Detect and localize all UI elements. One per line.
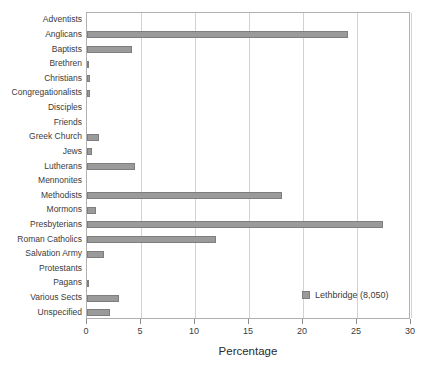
- bar-pagans: [87, 280, 89, 287]
- category-label-lutherans: Lutherans: [44, 161, 82, 171]
- bar-congregationalists: [87, 90, 90, 97]
- bar-row: [87, 159, 409, 174]
- bar-row: [87, 188, 409, 203]
- legend: Lethbridge (8,050): [302, 290, 389, 300]
- x-tick-label-25: 25: [351, 326, 361, 336]
- x-tick-25: [356, 319, 357, 324]
- bar-chart: AdventistsAnglicansBaptistsBrethrenChris…: [0, 0, 423, 368]
- category-label-brethren: Brethren: [49, 58, 82, 68]
- bar-christians: [87, 75, 90, 82]
- x-tick-label-0: 0: [83, 326, 88, 336]
- bar-methodists: [87, 192, 282, 199]
- bar-presbyterians: [87, 221, 383, 228]
- category-label-disciples: Disciples: [48, 102, 82, 112]
- gridline-30: [411, 13, 412, 318]
- x-tick-30: [410, 319, 411, 324]
- category-label-mennonites: Mennonites: [38, 175, 82, 185]
- bar-row: [87, 28, 409, 43]
- bar-row: [87, 174, 409, 189]
- bar-row: [87, 71, 409, 86]
- x-axis-title: Percentage: [86, 345, 410, 357]
- bar-row: [87, 305, 409, 320]
- bar-salvation-army: [87, 251, 104, 258]
- category-label-mormons: Mormons: [47, 204, 82, 214]
- x-tick-label-5: 5: [137, 326, 142, 336]
- bar-row: [87, 101, 409, 116]
- bar-row: [87, 145, 409, 160]
- bar-row: [87, 203, 409, 218]
- bar-unspecified: [87, 309, 110, 316]
- bar-row: [87, 232, 409, 247]
- category-label-unspecified: Unspecified: [38, 307, 82, 317]
- category-label-christians: Christians: [44, 73, 82, 83]
- x-tick-5: [140, 319, 141, 324]
- bar-brethren: [87, 61, 89, 68]
- x-tick-15: [248, 319, 249, 324]
- category-axis-labels: AdventistsAnglicansBaptistsBrethrenChris…: [0, 12, 82, 319]
- bar-greek-church: [87, 134, 99, 141]
- bar-row: [87, 115, 409, 130]
- category-label-congregationalists: Congregationalists: [12, 87, 82, 97]
- x-tick-label-30: 30: [405, 326, 415, 336]
- bar-row: [87, 42, 409, 57]
- category-label-friends: Friends: [54, 117, 82, 127]
- bar-row: [87, 130, 409, 145]
- plot-area: [86, 12, 410, 319]
- bar-row: [87, 262, 409, 277]
- category-label-methodists: Methodists: [41, 190, 82, 200]
- category-label-anglicans: Anglicans: [45, 29, 82, 39]
- bar-series-lethbridge: [87, 13, 409, 318]
- bar-anglicans: [87, 31, 348, 38]
- category-label-jews: Jews: [63, 146, 82, 156]
- legend-swatch-lethbridge: [302, 291, 310, 299]
- bar-row: [87, 57, 409, 72]
- bar-row: [87, 86, 409, 101]
- x-tick-label-20: 20: [297, 326, 307, 336]
- category-label-roman-catholics: Roman Catholics: [17, 234, 82, 244]
- category-label-greek-church: Greek Church: [29, 131, 82, 141]
- category-label-pagans: Pagans: [53, 277, 82, 287]
- legend-label-lethbridge: Lethbridge (8,050): [315, 290, 389, 300]
- x-tick-10: [194, 319, 195, 324]
- bar-lutherans: [87, 163, 135, 170]
- x-tick-label-10: 10: [189, 326, 199, 336]
- category-label-baptists: Baptists: [52, 44, 82, 54]
- category-label-adventists: Adventists: [43, 14, 82, 24]
- bar-row: [87, 276, 409, 291]
- bar-mormons: [87, 207, 96, 214]
- bar-row: [87, 218, 409, 233]
- x-tick-20: [302, 319, 303, 324]
- bar-row: [87, 247, 409, 262]
- bar-roman-catholics: [87, 236, 216, 243]
- bar-jews: [87, 148, 92, 155]
- x-tick-label-15: 15: [243, 326, 253, 336]
- bar-baptists: [87, 46, 132, 53]
- bar-row: [87, 13, 409, 28]
- category-label-salvation-army: Salvation Army: [25, 248, 82, 258]
- category-label-protestants: Protestants: [39, 263, 82, 273]
- category-label-various-sects: Various Sects: [30, 292, 82, 302]
- x-tick-0: [86, 319, 87, 324]
- bar-various-sects: [87, 295, 119, 302]
- category-label-presbyterians: Presbyterians: [30, 219, 82, 229]
